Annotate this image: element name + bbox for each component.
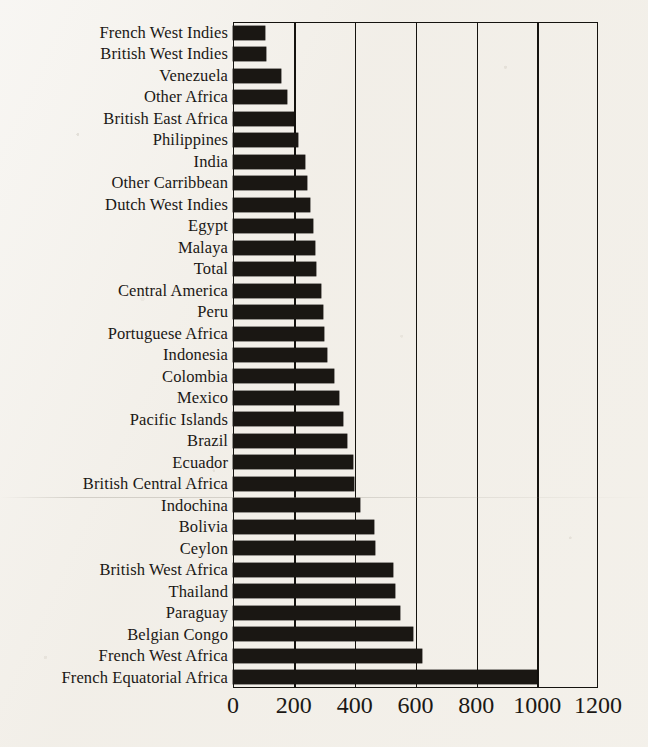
bar: [233, 47, 266, 61]
bar-row: [233, 344, 327, 365]
category-label: Philippines: [0, 129, 228, 150]
bar: [233, 670, 537, 684]
bar-row: [233, 86, 287, 107]
bar: [233, 369, 334, 383]
bar: [233, 90, 287, 104]
bar-row: [233, 366, 334, 387]
bar: [233, 391, 339, 405]
category-label: Pacific Islands: [0, 409, 228, 430]
bar-row: [233, 65, 281, 86]
bar-row: [233, 129, 298, 150]
bar: [233, 155, 305, 169]
category-label: French West Africa: [0, 645, 228, 666]
bar: [233, 412, 343, 426]
category-label: Brazil: [0, 430, 228, 451]
bar-row: [233, 258, 316, 279]
bar: [233, 198, 310, 212]
bar: [233, 455, 353, 469]
bar: [233, 584, 395, 598]
category-label: Portuguese Africa: [0, 323, 228, 344]
category-label: Paraguay: [0, 602, 228, 623]
bar-row: [233, 667, 537, 688]
bar: [233, 69, 281, 83]
bar-row: [233, 172, 307, 193]
bar: [233, 26, 265, 40]
category-label: Other Carribbean: [0, 172, 228, 193]
category-label: British West Africa: [0, 559, 228, 580]
bar-row: [233, 516, 374, 537]
category-label: Indochina: [0, 495, 228, 516]
x-tick-label-800: 800: [458, 690, 494, 720]
x-tick-label-0: 0: [227, 690, 239, 720]
category-label: Mexico: [0, 387, 228, 408]
category-label: British West Indies: [0, 43, 228, 64]
bar: [233, 241, 315, 255]
bar-row: [233, 387, 339, 408]
bar-row: [233, 22, 265, 43]
category-label: Egypt: [0, 215, 228, 236]
bar: [233, 606, 400, 620]
category-label: British Central Africa: [0, 473, 228, 494]
x-axis-tick-labels: 020040060080010001200: [233, 690, 598, 730]
bar-row: [233, 602, 400, 623]
category-axis-labels: French West IndiesBritish West IndiesVen…: [0, 22, 228, 688]
bar-row: [233, 559, 393, 580]
x-tick-label-1200: 1200: [574, 690, 622, 720]
bar: [233, 541, 375, 555]
bar: [233, 262, 316, 276]
bar-row: [233, 280, 321, 301]
bar-row: [233, 301, 323, 322]
bar-row: [233, 151, 305, 172]
bar: [233, 627, 413, 641]
x-tick-label-600: 600: [398, 690, 434, 720]
bar-row: [233, 538, 375, 559]
bar: [233, 112, 294, 126]
category-label: Belgian Congo: [0, 624, 228, 645]
category-label: Ceylon: [0, 538, 228, 559]
category-label: Other Africa: [0, 86, 228, 107]
bar: [233, 434, 347, 448]
bar-row: [233, 194, 310, 215]
bar-row: [233, 409, 343, 430]
bar: [233, 305, 323, 319]
bar-row: [233, 645, 422, 666]
bar-row: [233, 581, 395, 602]
category-label: British East Africa: [0, 108, 228, 129]
category-label: French West Indies: [0, 22, 228, 43]
horizontal-bar-chart: French West IndiesBritish West IndiesVen…: [0, 0, 648, 747]
bar: [233, 284, 321, 298]
bar: [233, 477, 354, 491]
category-label: Malaya: [0, 237, 228, 258]
category-label: Venezuela: [0, 65, 228, 86]
bar-row: [233, 473, 354, 494]
bar-row: [233, 430, 347, 451]
bar: [233, 176, 307, 190]
bar-row: [233, 237, 315, 258]
bar: [233, 219, 313, 233]
category-label: Ecuador: [0, 452, 228, 473]
bar: [233, 520, 374, 534]
bar: [233, 348, 327, 362]
bars-container: [233, 22, 598, 688]
category-label: Total: [0, 258, 228, 279]
category-label: Dutch West Indies: [0, 194, 228, 215]
x-tick-label-1000: 1000: [513, 690, 561, 720]
category-label: Colombia: [0, 366, 228, 387]
bar-row: [233, 108, 294, 129]
category-label: Indonesia: [0, 344, 228, 365]
category-label: French Equatorial Africa: [0, 667, 228, 688]
category-label: India: [0, 151, 228, 172]
bar: [233, 498, 360, 512]
bar-row: [233, 624, 413, 645]
category-label: Bolivia: [0, 516, 228, 537]
bar-row: [233, 215, 313, 236]
bar: [233, 327, 324, 341]
bar-row: [233, 43, 266, 64]
x-tick-label-200: 200: [276, 690, 312, 720]
category-label: Thailand: [0, 581, 228, 602]
x-tick-label-400: 400: [337, 690, 373, 720]
bar: [233, 133, 298, 147]
category-label: Peru: [0, 301, 228, 322]
bar: [233, 649, 422, 663]
bar: [233, 563, 393, 577]
